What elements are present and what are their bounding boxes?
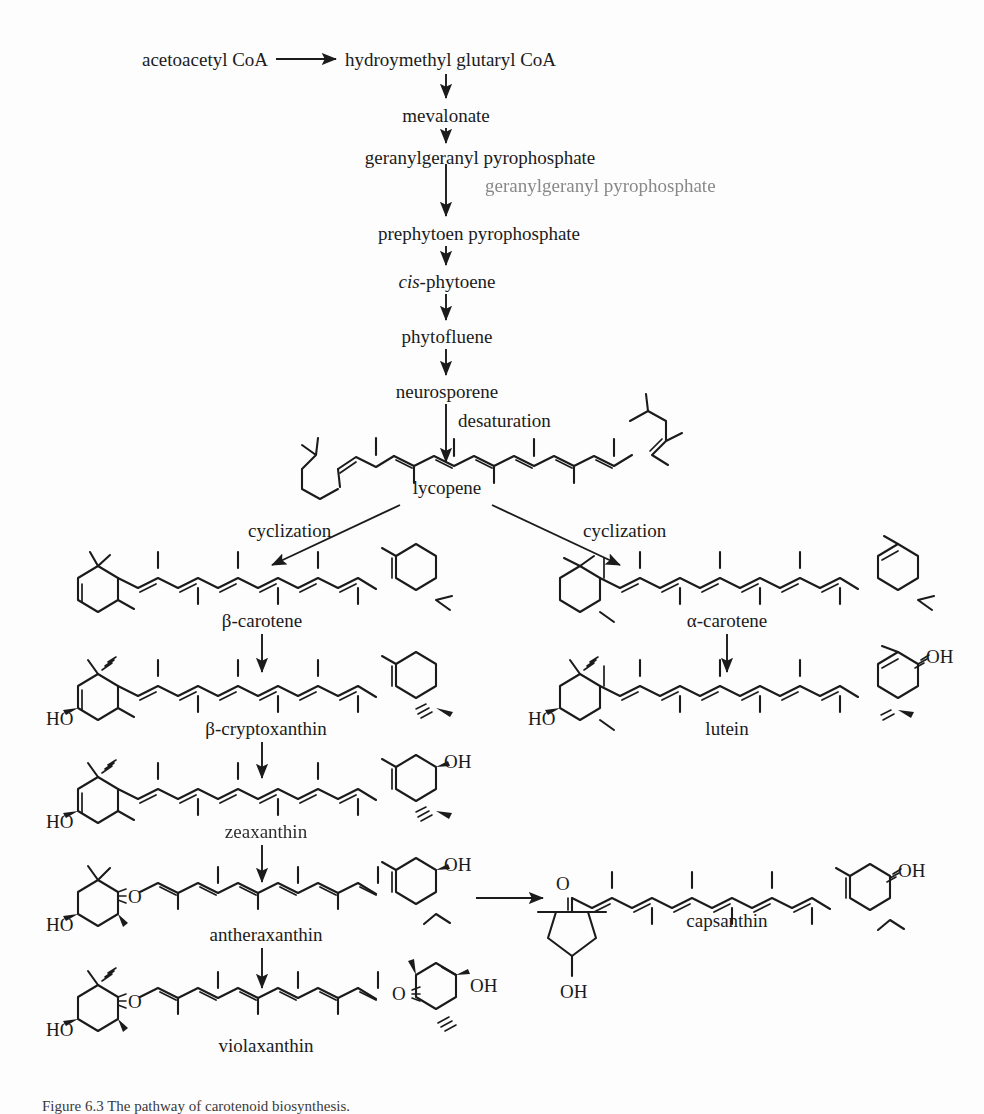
diagram-vectors: HO HO [0, 0, 984, 1114]
structure-violaxanthin: HO O O OH [46, 959, 498, 1040]
label-epoxide-o-violaxanthin-right: O [392, 983, 406, 1004]
structure-capsanthin: O OH OH [538, 860, 926, 1002]
arrow-cyclization-left [272, 505, 400, 565]
structure-zeaxanthin: HO OH [46, 751, 472, 832]
arrow-cyclization-right [492, 505, 620, 565]
figure-canvas: acetoacetyl CoA hydroymethyl glutaryl Co… [0, 0, 984, 1114]
label-oh-violaxanthin: OH [470, 975, 498, 996]
structure-lutein: HO OH [528, 646, 954, 730]
structure-beta-carotene [78, 544, 452, 612]
label-ketone-o-capsanthin: O [556, 873, 570, 894]
structure-lycopene [302, 394, 682, 499]
label-oh-capsanthin: OH [560, 981, 588, 1002]
structure-beta-cryptoxanthin: HO [46, 652, 453, 729]
label-oh-capsanthin-right: OH [898, 860, 926, 881]
structure-antheraxanthin: HO O OH [46, 854, 472, 935]
label-epoxide-o-violaxanthin-left: O [128, 991, 142, 1012]
label-oh-lutein: OH [926, 646, 954, 667]
structure-alpha-carotene [560, 536, 934, 622]
label-epoxide-o-antheraxanthin: O [128, 886, 142, 907]
